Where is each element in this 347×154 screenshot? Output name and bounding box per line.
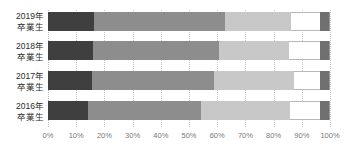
category-label-line: 卒業生: [0, 22, 44, 33]
x-axis-tick-label: 40%: [153, 131, 168, 140]
category-label-line: 2017年: [0, 71, 44, 82]
bar-segment: [92, 71, 213, 90]
bar-segment: [320, 41, 330, 60]
x-axis-tick-label: 60%: [210, 131, 225, 140]
x-axis-tick-label: 30%: [125, 131, 140, 140]
category-label-line: 卒業生: [0, 52, 44, 63]
bar-segment: [320, 71, 330, 90]
x-axis-tick-label: 100%: [320, 131, 339, 140]
category-label-line: 卒業生: [0, 112, 44, 123]
stacked-bar-chart: 2019年 卒業生 2018年 卒業生 2017年 卒業生 2016年 卒業生 …: [0, 0, 347, 154]
x-axis-tick-label: 90%: [294, 131, 309, 140]
table-row: [48, 41, 330, 60]
bar-segment: [290, 101, 320, 120]
bar-segment: [294, 71, 321, 90]
category-label: 2016年 卒業生: [0, 101, 44, 122]
category-label: 2018年 卒業生: [0, 41, 44, 62]
bar-segment: [201, 101, 291, 120]
bar-segment: [88, 101, 201, 120]
category-label-line: 2019年: [0, 11, 44, 22]
bar-segment: [291, 12, 320, 31]
category-label: 2017年 卒業生: [0, 71, 44, 92]
category-label: 2019年 卒業生: [0, 11, 44, 32]
bar-segment: [320, 12, 330, 31]
bar-segment: [219, 41, 289, 60]
gridline: [330, 10, 332, 127]
plot-area: [48, 10, 330, 127]
bar-segment: [48, 71, 92, 90]
x-axis-tick-label: 20%: [97, 131, 112, 140]
x-axis-tick-label: 10%: [69, 131, 84, 140]
table-row: [48, 12, 330, 31]
table-row: [48, 71, 330, 90]
x-axis-tick-label: 0%: [43, 131, 54, 140]
x-axis-tick-labels: 0%10%20%30%40%50%60%70%80%90%100%: [48, 131, 330, 145]
x-axis-tick-label: 80%: [266, 131, 281, 140]
bar-segment: [48, 12, 94, 31]
category-label-line: 2018年: [0, 41, 44, 52]
bar-segment: [93, 41, 218, 60]
x-axis-tick-label: 70%: [238, 131, 253, 140]
category-label-line: 卒業生: [0, 82, 44, 93]
bar-segment: [48, 101, 88, 120]
bar-segment: [94, 12, 225, 31]
bar-segment: [320, 101, 330, 120]
bar-segment: [48, 41, 93, 60]
bar-segment: [225, 12, 291, 31]
x-axis-tick-label: 50%: [181, 131, 196, 140]
table-row: [48, 101, 330, 120]
category-label-line: 2016年: [0, 101, 44, 112]
category-axis: 2019年 卒業生 2018年 卒業生 2017年 卒業生 2016年 卒業生: [0, 10, 44, 127]
bar-segment: [214, 71, 294, 90]
bar-segment: [289, 41, 321, 60]
